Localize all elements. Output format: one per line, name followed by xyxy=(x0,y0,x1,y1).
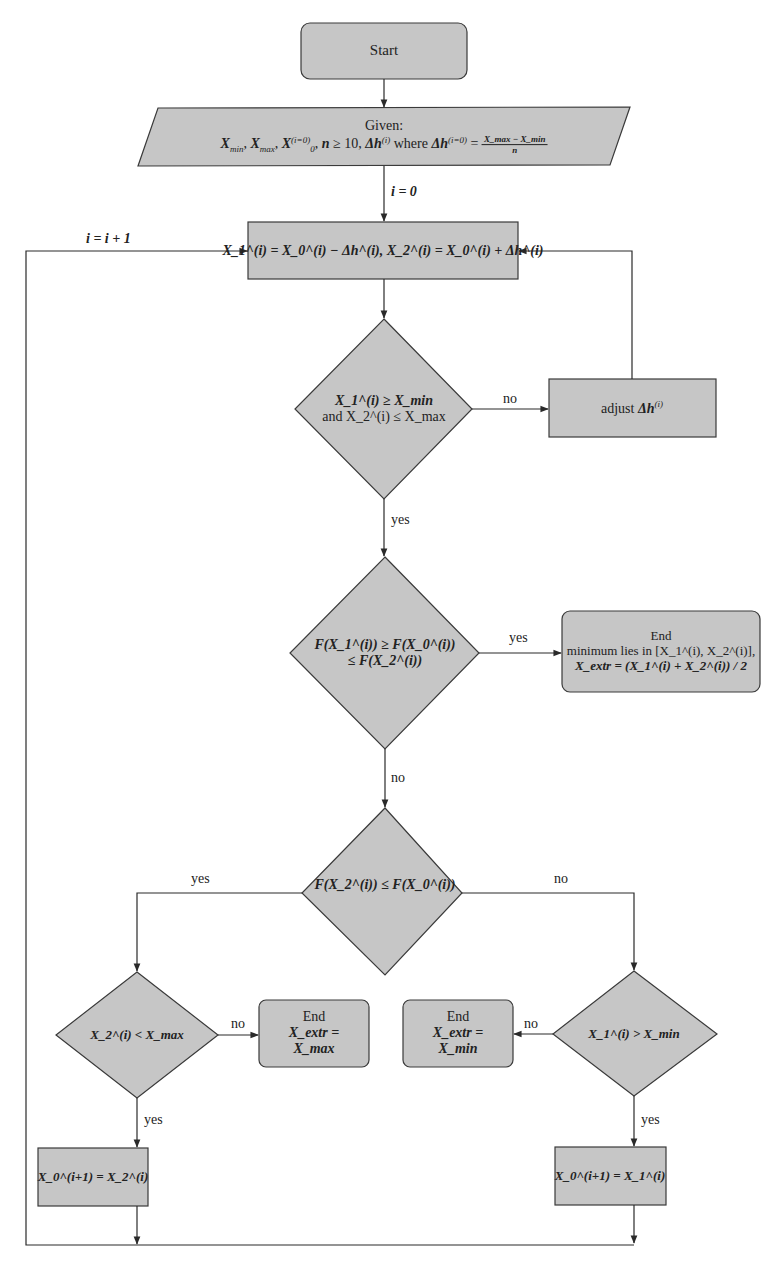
check-x1min-label: X_1^(i) > X_min xyxy=(588,1027,679,1042)
edge-label-bounds-yes: yes xyxy=(391,512,410,528)
edge-label-x2max-no: no xyxy=(231,1016,245,1032)
edge-label-init: i = 0 xyxy=(391,184,417,200)
given-params: Xmin, Xmax, X(i=0)0, n ≥ 10, Δh(i) where… xyxy=(221,134,548,156)
edge-label-x1min-yes: yes xyxy=(641,1112,660,1128)
check-min-label: F(X_1^(i)) ≥ F(X_0^(i)) ≤ F(X_2^(i)) xyxy=(314,637,455,669)
edge-label-bounds-no: no xyxy=(503,391,517,407)
edge-label-loop: i = i + 1 xyxy=(86,231,131,247)
end-max-label: End X_extr = X_max xyxy=(289,1009,339,1057)
edge-label-min-no: no xyxy=(391,770,405,786)
given-label: Given: Xmin, Xmax, X(i=0)0, n ≥ 10, Δh(i… xyxy=(221,118,548,156)
set-x2-label: X_0^(i+1) = X_2^(i) xyxy=(38,1170,149,1185)
end-min-label: End X_extr = X_min xyxy=(433,1009,483,1057)
edge-label-min-yes: yes xyxy=(509,630,528,646)
edge-label-f2-yes: yes xyxy=(191,871,210,887)
edge-label-f2-no: no xyxy=(554,871,568,887)
start-label: Start xyxy=(370,42,398,59)
edge-label-x1min-no: no xyxy=(524,1016,538,1032)
edge-adjust-update xyxy=(519,251,632,379)
end-interval-label: End minimum lies in [X_1^(i), X_2^(i)], … xyxy=(567,629,755,674)
adjust-label: adjust Δh(i) xyxy=(601,399,663,417)
edge-f2-no xyxy=(462,893,634,970)
edge-f2-yes xyxy=(137,893,302,971)
given-title: Given: xyxy=(221,118,548,134)
edge-label-x2max-yes: yes xyxy=(144,1112,163,1128)
update-label: X_1^(i) = X_0^(i) − Δh^(i), X_2^(i) = X_… xyxy=(222,243,543,259)
set-x1-label: X_0^(i+1) = X_1^(i) xyxy=(555,1169,666,1184)
check-f2-label: F(X_2^(i)) ≤ F(X_0^(i)) xyxy=(314,877,455,893)
check-x2max-label: X_2^(i) < X_max xyxy=(90,1028,184,1043)
check-bounds-label: X_1^(i) ≥ X_min and X_2^(i) ≤ X_max xyxy=(322,393,446,425)
